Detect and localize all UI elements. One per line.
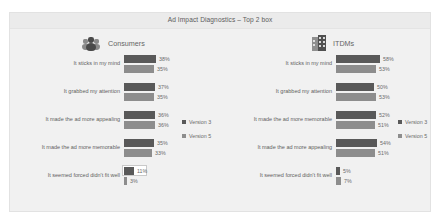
bar-version-5 [336,149,375,157]
category-label: It grabbed my attention [16,87,120,95]
panel-heading-itdms: ITDMs [312,33,354,53]
bar-row: 37% [124,83,169,91]
category-label: It sticks in my mind [16,59,120,67]
panel-heading-label: ITDMs [333,39,354,48]
panel-heading-consumers: Consumers [82,33,145,53]
bar-pair: 11% 3% [124,167,147,187]
bar-row: 35% [124,139,168,147]
bar-group: It seemed forced didn't fit well 11% 3% [14,165,222,189]
bar-value: 35% [157,66,168,72]
bar-value: 11% [137,168,147,174]
bar-value: 52% [379,112,390,118]
bar-value: 50% [377,84,388,90]
category-label: It made the ad more appealing [224,143,332,151]
legend-item: Version 5 [182,129,222,143]
legend-swatch-version-3 [182,120,186,124]
panel-heading-label: Consumers [108,39,145,48]
bar-value: 38% [159,56,170,62]
bar-value: 53% [379,94,390,100]
panel-itdms: ITDMs It sticks in my mind 58% 53% [222,31,428,211]
legend-consumers: Version 3 Version 5 [182,115,222,143]
bar-pair: 54% 51% [336,139,391,159]
bar-row: 7% [336,177,352,185]
bar-pair: 52% 51% [336,111,390,131]
bar-row: 58% [336,55,394,63]
bar-pair: 35% 33% [124,139,168,159]
bar-version-5 [336,65,376,73]
bar-row: 35% [124,93,169,101]
bar-row: 38% [124,55,170,63]
bar-version-5 [336,93,376,101]
bar-row: 36% [124,121,169,129]
category-label: It made the ad more memorable [16,143,120,151]
bar-row: 3% [124,177,147,185]
legend-item: Version 3 [398,115,438,129]
bar-row: 11% [124,167,147,175]
legend-label: Version 3 [189,119,211,125]
bar-pair: 5% 7% [336,167,352,187]
bar-pair: 38% 35% [124,55,170,75]
bar-version-5 [124,65,154,73]
category-label: It seemed forced didn't fit well [16,171,120,179]
bar-value: 36% [158,122,169,128]
bar-row: 5% [336,167,352,175]
bar-value: 3% [130,178,138,184]
bar-value: 51% [378,150,389,156]
legend-swatch-version-5 [182,134,186,138]
chart-itdms: It sticks in my mind 58% 53% It grabbed … [222,53,428,211]
bar-row: 51% [336,121,390,129]
panel-consumers: Consumers It sticks in my mind 38% 35% [14,31,222,211]
bar-version-5 [124,93,154,101]
bar-row: 50% [336,83,390,91]
legend-label: Version 5 [189,133,211,139]
bar-version-5 [124,149,152,157]
bar-pair: 37% 35% [124,83,169,103]
legend-label: Version 5 [405,133,427,139]
bar-value: 58% [383,56,394,62]
bar-row: 33% [124,149,168,157]
bar-version-3 [336,83,374,91]
bar-row: 35% [124,65,170,73]
people-icon [82,36,101,51]
bar-group: It sticks in my mind 38% 35% [14,53,222,77]
bar-row: 36% [124,111,169,119]
category-label: It made the ad more appealing [16,115,120,123]
legend-label: Version 3 [405,119,427,125]
legend-swatch-version-3 [398,120,402,124]
category-label: It seemed forced didn't fit well [224,171,332,179]
bar-group: It grabbed my attention 37% 35% [14,81,222,105]
bar-group: It sticks in my mind 58% 53% [222,53,428,77]
bar-version-3 [124,111,155,119]
bar-version-3 [124,139,154,147]
bar-version-5 [124,121,155,129]
bar-row: 53% [336,93,390,101]
bar-row: 53% [336,65,394,73]
chart-consumers: It sticks in my mind 38% 35% It grabbed … [14,53,222,211]
bar-value: 35% [157,140,168,146]
bar-value: 54% [380,140,391,146]
legend-item: Version 3 [182,115,222,129]
bar-value: 7% [344,178,352,184]
bar-version-3 [336,111,376,119]
bar-value: 5% [343,168,351,174]
bar-version-3 [124,55,156,63]
bar-value: 37% [158,84,169,90]
bar-value: 51% [378,122,389,128]
bar-value: 53% [379,66,390,72]
bar-version-3 [336,139,377,147]
category-label: It grabbed my attention [224,87,332,95]
slide-canvas: Ad Impact Diagnostics – Top 2 box Consum… [9,12,431,212]
legend-itdms: Version 3 Version 5 [398,115,438,143]
page-title: Ad Impact Diagnostics – Top 2 box [10,16,430,23]
bar-value: 36% [158,112,169,118]
bar-value: 35% [157,94,168,100]
bar-row: 54% [336,139,391,147]
bar-version-3 [336,167,340,175]
bar-version-5 [336,121,375,129]
bar-row: 51% [336,149,391,157]
building-icon [312,35,326,51]
bar-version-5 [336,177,341,185]
bar-value: 33% [155,150,166,156]
bar-version-3 [336,55,380,63]
category-label: It sticks in my mind [224,59,332,67]
